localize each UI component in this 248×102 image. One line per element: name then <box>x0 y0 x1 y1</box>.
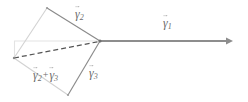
gamma23-second-subscript: 3 <box>54 74 58 83</box>
gamma1-arrowhead-icon <box>226 38 233 45</box>
gamma2-label: γ 2 <box>75 5 84 22</box>
parallelogram-side-top-left <box>14 8 47 58</box>
bottom-vertex-dot <box>67 94 69 96</box>
gamma23-first-subscript: 2 <box>38 74 42 83</box>
left-vertex-dot <box>13 57 15 59</box>
gamma2-glyph: γ <box>75 7 80 21</box>
gamma23-first-symbol: γ <box>33 69 38 81</box>
gamma2-plus-gamma3-label: γ 2+ γ 3 <box>33 66 58 83</box>
gamma3-subscript: 3 <box>94 72 98 81</box>
vector-addition-figure: γ 1 γ 2 γ 3 γ 2+ <box>0 0 248 102</box>
gamma1-label: γ 1 <box>163 14 172 31</box>
gamma2-vector-line <box>47 8 100 41</box>
gamma1-glyph: γ <box>163 16 168 30</box>
gamma23-first-glyph: γ <box>33 68 38 82</box>
gamma1-symbol: γ <box>163 17 168 29</box>
gamma2-subscript: 2 <box>80 13 84 22</box>
vector-diagram-canvas <box>0 0 248 102</box>
gamma3-label: γ 3 <box>89 64 98 81</box>
gamma23-plus-operator: + <box>43 69 49 80</box>
top-vertex-dot <box>46 7 48 9</box>
origin-vertex-dot <box>98 39 101 42</box>
gamma2-symbol: γ <box>75 8 80 20</box>
gamma23-second-glyph: γ <box>49 68 54 82</box>
gamma2-plus-gamma3-dashed-line <box>14 42 99 59</box>
vector-arrow-icon <box>75 4 80 9</box>
gamma1-subscript: 1 <box>168 22 172 31</box>
vector-arrow-icon <box>49 65 54 70</box>
vector-arrow-icon <box>33 65 38 70</box>
vector-arrow-icon <box>89 63 94 68</box>
gamma3-symbol: γ <box>89 67 94 79</box>
gamma3-glyph: γ <box>89 66 94 80</box>
gamma23-second-symbol: γ <box>49 69 54 81</box>
vector-arrow-icon <box>163 13 168 18</box>
